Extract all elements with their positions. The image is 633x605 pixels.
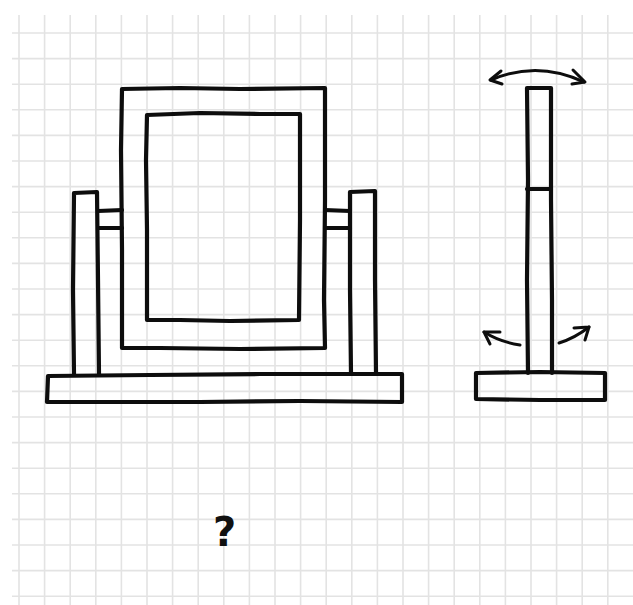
right-post <box>350 191 376 374</box>
side-base <box>476 372 605 400</box>
side-view <box>476 70 605 400</box>
question-mark-annotation: ? <box>213 512 236 552</box>
mirror-sketch-canvas <box>0 0 633 605</box>
swing-arrow-left-icon <box>484 332 520 345</box>
tilt-arrow-top-icon <box>490 70 585 84</box>
